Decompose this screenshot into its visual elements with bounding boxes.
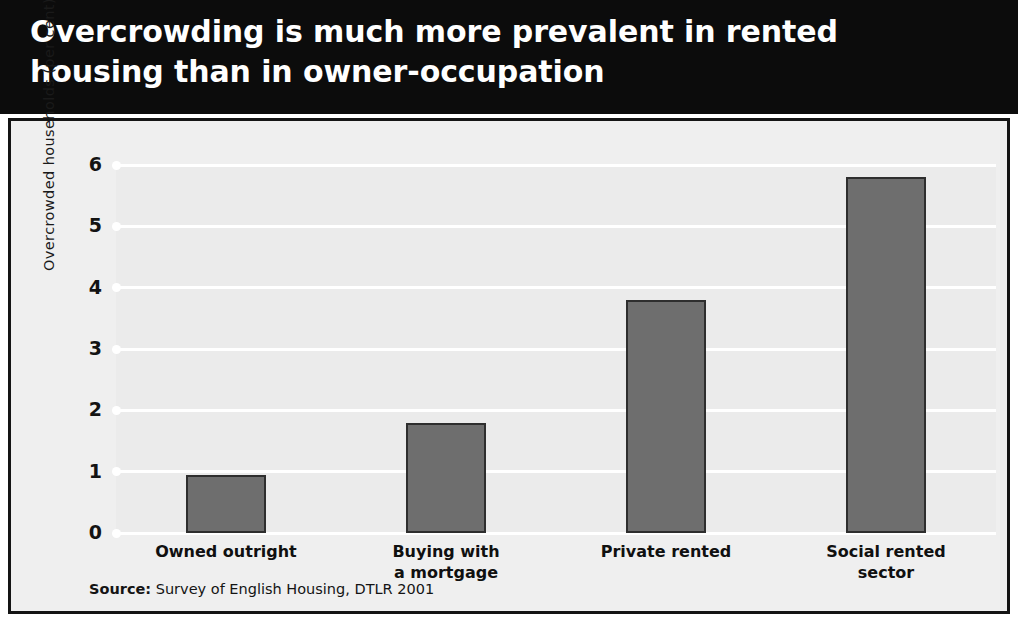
category-label-line: sector [776,562,996,583]
chart-figure: Overcrowding is much more prevalent in r… [0,0,1018,622]
y-axis-tick-marker [112,161,121,170]
chart-title-line-2: housing than in owner-occupation [30,52,978,92]
category-label-line: Private rented [556,541,776,562]
source-text: Survey of English Housing, DTLR 2001 [151,581,434,597]
category-label-line: Buying with [336,541,556,562]
y-axis-tick-label: 3 [89,339,102,358]
source-label: Source: [89,581,151,597]
category-label: Social rentedsector [776,541,996,583]
category-label: Buying witha mortgage [336,541,556,583]
y-axis-tick-label: 1 [89,462,102,481]
chart-title-band: Overcrowding is much more prevalent in r… [0,0,1018,114]
y-axis-tick-marker [112,529,121,538]
bar [846,177,926,533]
source-note: Source: Survey of English Housing, DTLR … [89,581,434,597]
y-axis-tick-label: 2 [89,400,102,419]
bar [186,475,266,533]
y-axis-tick-label: 5 [89,216,102,235]
y-axis-tick-marker [112,222,121,231]
category-label-line: Owned outright [116,541,336,562]
y-axis-tick-marker [112,345,121,354]
category-label: Owned outright [116,541,336,562]
y-axis-tick-marker [112,283,121,292]
plot-area: 0123456 [116,165,996,533]
y-axis-tick-label: 0 [89,523,102,542]
y-axis-tick-marker [112,467,121,476]
y-axis-tick-marker [112,406,121,415]
y-axis-tick-label: 6 [89,155,102,174]
chart-title-line-1: Overcrowding is much more prevalent in r… [30,12,978,52]
chart-panel: Overcrowded households (per cent) 012345… [8,118,1010,614]
bar [406,423,486,533]
y-axis-title: Overcrowded households (per cent) [41,0,57,271]
chart-panel-inner: Overcrowded households (per cent) 012345… [11,121,1007,611]
category-label-line: a mortgage [336,562,556,583]
category-label: Private rented [556,541,776,562]
y-axis-tick-label: 4 [89,278,102,297]
bar [626,300,706,533]
gridline [116,164,996,167]
category-label-line: Social rented [776,541,996,562]
